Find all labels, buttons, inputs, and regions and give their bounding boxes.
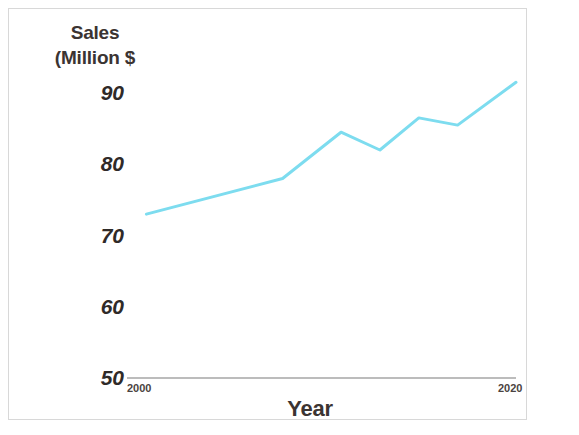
line-chart: Sales (Million $ 90 80 70 60 50 2000 202… (0, 0, 579, 435)
x-axis-title: Year (230, 396, 390, 422)
plot-area (0, 0, 579, 435)
sales-data-line (146, 82, 516, 214)
